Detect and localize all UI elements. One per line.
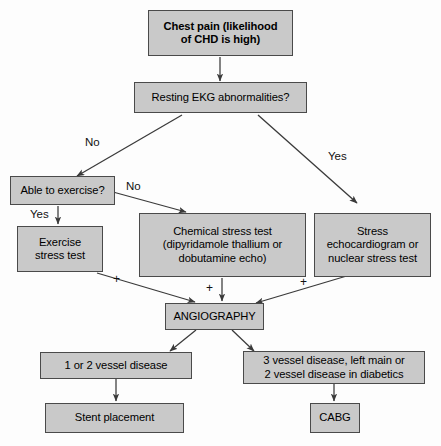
- flowchart-canvas: Chest pain (likelihood of CHD is high) R…: [0, 0, 441, 446]
- node-resting-ekg-text: Resting EKG abnormalities?: [152, 91, 290, 104]
- node-three-vessel[interactable]: 3 vessel disease, left main or 2 vessel …: [243, 351, 425, 384]
- node-stent-placement[interactable]: Stent placement: [45, 403, 184, 433]
- node-chemical-stress-test-line3: dobutamine echo): [179, 252, 267, 264]
- node-exercise-stress-test[interactable]: Exercise stress test: [17, 226, 103, 272]
- node-chest-pain-line2: of CHD is high): [181, 33, 260, 45]
- node-chemical-stress-test-line1: Chemical stress test: [173, 225, 272, 237]
- node-able-to-exercise[interactable]: Able to exercise?: [10, 176, 115, 205]
- connector-exercise-to-chemical-no: [113, 192, 186, 212]
- node-stress-echo-line3: nuclear stress test: [328, 252, 417, 264]
- connector-angiography-to-three: [232, 330, 254, 351]
- node-chest-pain-line1: Chest pain (likelihood: [163, 20, 277, 32]
- node-stent-placement-text: Stent placement: [75, 411, 154, 424]
- node-resting-ekg[interactable]: Resting EKG abnormalities?: [134, 82, 307, 113]
- node-chest-pain-text: Chest pain (likelihood of CHD is high): [163, 20, 277, 46]
- edge-label-exercise-yes: Yes: [30, 208, 49, 220]
- node-exercise-stress-test-text: Exercise stress test: [35, 236, 85, 262]
- node-chest-pain[interactable]: Chest pain (likelihood of CHD is high): [148, 10, 293, 56]
- plus-label-left: +: [113, 272, 120, 286]
- node-three-vessel-text: 3 vessel disease, left main or 2 vessel …: [263, 354, 404, 380]
- connector-angiography-to-onetwo: [170, 330, 196, 351]
- node-cabg[interactable]: CABG: [310, 403, 360, 433]
- node-one-or-two-vessel-text: 1 or 2 vessel disease: [65, 359, 168, 372]
- plus-label-center: +: [206, 281, 213, 295]
- node-exercise-stress-test-line2: stress test: [35, 249, 85, 261]
- node-able-to-exercise-text: Able to exercise?: [20, 184, 104, 197]
- node-stress-echo[interactable]: Stress echocardiogram or nuclear stress …: [314, 213, 431, 277]
- node-three-vessel-line2: 2 vessel disease in diabetics: [265, 368, 404, 380]
- node-cabg-text: CABG: [319, 411, 350, 424]
- node-chemical-stress-test-line2: (dipyridamole thallium or: [163, 238, 282, 250]
- plus-label-right: +: [300, 275, 307, 289]
- node-chemical-stress-test[interactable]: Chemical stress test (dipyridamole thall…: [139, 213, 306, 277]
- node-exercise-stress-test-line1: Exercise: [39, 236, 81, 248]
- edge-label-ekg-no: No: [85, 136, 100, 148]
- node-stress-echo-line1: Stress: [357, 225, 388, 237]
- node-angiography[interactable]: ANGIOGRAPHY: [165, 303, 264, 330]
- node-angiography-text: ANGIOGRAPHY: [173, 310, 255, 323]
- connector-exercisetest-to-angiography: [97, 273, 195, 302]
- node-chemical-stress-test-text: Chemical stress test (dipyridamole thall…: [163, 225, 282, 265]
- edge-label-exercise-no: No: [126, 180, 141, 192]
- node-three-vessel-line1: 3 vessel disease, left main or: [263, 354, 404, 366]
- node-one-or-two-vessel[interactable]: 1 or 2 vessel disease: [40, 352, 192, 379]
- edge-label-ekg-yes: Yes: [328, 150, 347, 162]
- node-stress-echo-line2: echocardiogram or: [327, 238, 419, 250]
- node-stress-echo-text: Stress echocardiogram or nuclear stress …: [327, 225, 419, 265]
